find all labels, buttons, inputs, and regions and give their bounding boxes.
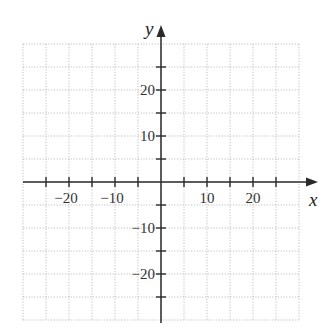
- y-tick-label: 10: [140, 128, 155, 144]
- x-tick-label: −10: [100, 190, 123, 206]
- y-tick-label: −10: [132, 220, 155, 236]
- y-axis-label: y: [143, 18, 154, 39]
- x-axis-label: x: [308, 189, 318, 210]
- coordinate-plane: −20−1010202010−10−20 x y: [0, 0, 334, 335]
- y-tick-label: 20: [140, 82, 155, 98]
- axes: [23, 25, 318, 323]
- y-axis-arrow-icon: [157, 25, 166, 37]
- x-axis-arrow-icon: [306, 178, 318, 187]
- x-tick-label: 20: [246, 190, 261, 206]
- x-tick-label: −20: [54, 190, 77, 206]
- y-tick-label: −20: [132, 266, 155, 282]
- x-tick-label: 10: [200, 190, 215, 206]
